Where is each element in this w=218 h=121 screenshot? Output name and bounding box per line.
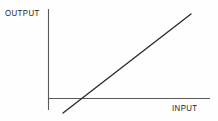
y-axis-label: OUTPUT: [5, 8, 40, 18]
x-axis-label: INPUT: [172, 103, 198, 113]
graph-screenshot: OUTPUT INPUT: [0, 0, 218, 121]
